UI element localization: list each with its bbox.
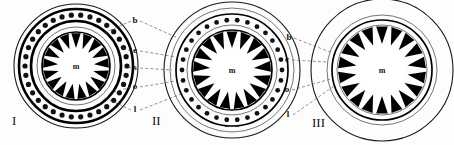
bead — [104, 23, 109, 28]
tooth — [338, 57, 356, 68]
bead — [30, 37, 35, 42]
label-o-center: o — [133, 81, 138, 91]
bead — [26, 45, 31, 50]
bead — [180, 68, 185, 73]
bead — [43, 23, 48, 28]
tooth — [350, 90, 366, 107]
leader-3-e — [292, 60, 327, 62]
bead — [235, 18, 240, 23]
bead — [87, 14, 92, 19]
bead — [181, 78, 186, 83]
bead — [205, 111, 210, 116]
bead — [30, 90, 35, 95]
bead — [181, 57, 186, 62]
tooth — [408, 57, 426, 68]
bead — [69, 114, 74, 119]
bead — [263, 105, 268, 110]
bead — [214, 115, 219, 120]
bead — [117, 90, 122, 95]
tooth — [399, 33, 415, 50]
roman-numeral-2: II — [152, 113, 161, 128]
bead — [214, 20, 219, 25]
bead — [279, 78, 284, 83]
bead — [245, 20, 250, 25]
bead — [69, 13, 74, 18]
panel-3-diagram: m — [311, 0, 453, 141]
layer-labels-center: b e s o l — [132, 15, 137, 114]
label-b-center: b — [132, 15, 137, 25]
tooth — [254, 61, 271, 72]
bead — [245, 115, 250, 120]
leader-o-right — [140, 81, 176, 87]
bead — [78, 13, 83, 18]
bead — [87, 112, 92, 117]
bead — [224, 18, 229, 23]
bead — [275, 47, 280, 52]
bead — [104, 104, 109, 109]
label-e-right: e — [285, 54, 289, 64]
tooth — [376, 26, 388, 44]
bead — [96, 109, 101, 114]
bead — [279, 57, 284, 62]
tooth — [43, 58, 58, 67]
tooth — [253, 75, 270, 85]
bead — [111, 98, 116, 103]
tooth — [391, 27, 403, 46]
bead — [23, 54, 28, 59]
label-s-center: s — [133, 62, 137, 72]
bead — [280, 68, 285, 73]
bead — [205, 24, 210, 29]
tooth — [376, 96, 388, 114]
bead — [121, 45, 126, 50]
tooth — [338, 72, 356, 83]
figure-canvas: m m m — [0, 0, 454, 145]
label-l-right: l — [287, 109, 290, 119]
tooth — [350, 33, 366, 50]
tooth — [94, 58, 109, 67]
tooth — [65, 84, 74, 99]
tooth — [362, 94, 374, 113]
label-l-center: l — [134, 104, 137, 114]
tooth — [408, 72, 426, 83]
cross-section-svg: m m m — [0, 0, 454, 145]
bead — [263, 30, 268, 35]
bead — [22, 63, 27, 68]
bead — [196, 105, 201, 110]
tooth — [220, 92, 231, 109]
panel-2-center-label: m — [229, 66, 236, 75]
tooth — [362, 27, 374, 46]
bead — [59, 14, 64, 19]
bead — [270, 38, 275, 43]
leader-3-b — [294, 38, 330, 52]
bead — [117, 37, 122, 42]
bead — [189, 38, 194, 43]
tooth — [391, 94, 403, 113]
leader-b-right — [140, 21, 178, 38]
bead — [196, 30, 201, 35]
tooth — [234, 92, 245, 109]
tooth — [193, 61, 210, 72]
tooth — [193, 75, 210, 85]
bead — [121, 82, 126, 87]
tooth — [399, 90, 415, 107]
roman-numeral-1: I — [12, 113, 16, 128]
label-o-right: o — [285, 84, 290, 94]
panel-1-diagram: m — [14, 4, 138, 128]
bead — [78, 114, 83, 119]
bead — [255, 24, 260, 29]
tooth — [71, 33, 80, 48]
roman-numeral-3: III — [312, 115, 325, 130]
bead — [184, 88, 189, 93]
bead — [275, 88, 280, 93]
panel-1-center-label: m — [73, 62, 80, 71]
bead — [235, 117, 240, 122]
bead — [59, 112, 64, 117]
panel-2-diagram: m — [164, 2, 300, 138]
bead — [124, 54, 129, 59]
panel-3-center-label: m — [379, 66, 386, 75]
bead — [51, 18, 56, 23]
bead — [255, 111, 260, 116]
label-b-right: b — [286, 32, 291, 42]
bead — [224, 117, 229, 122]
bead — [96, 18, 101, 23]
